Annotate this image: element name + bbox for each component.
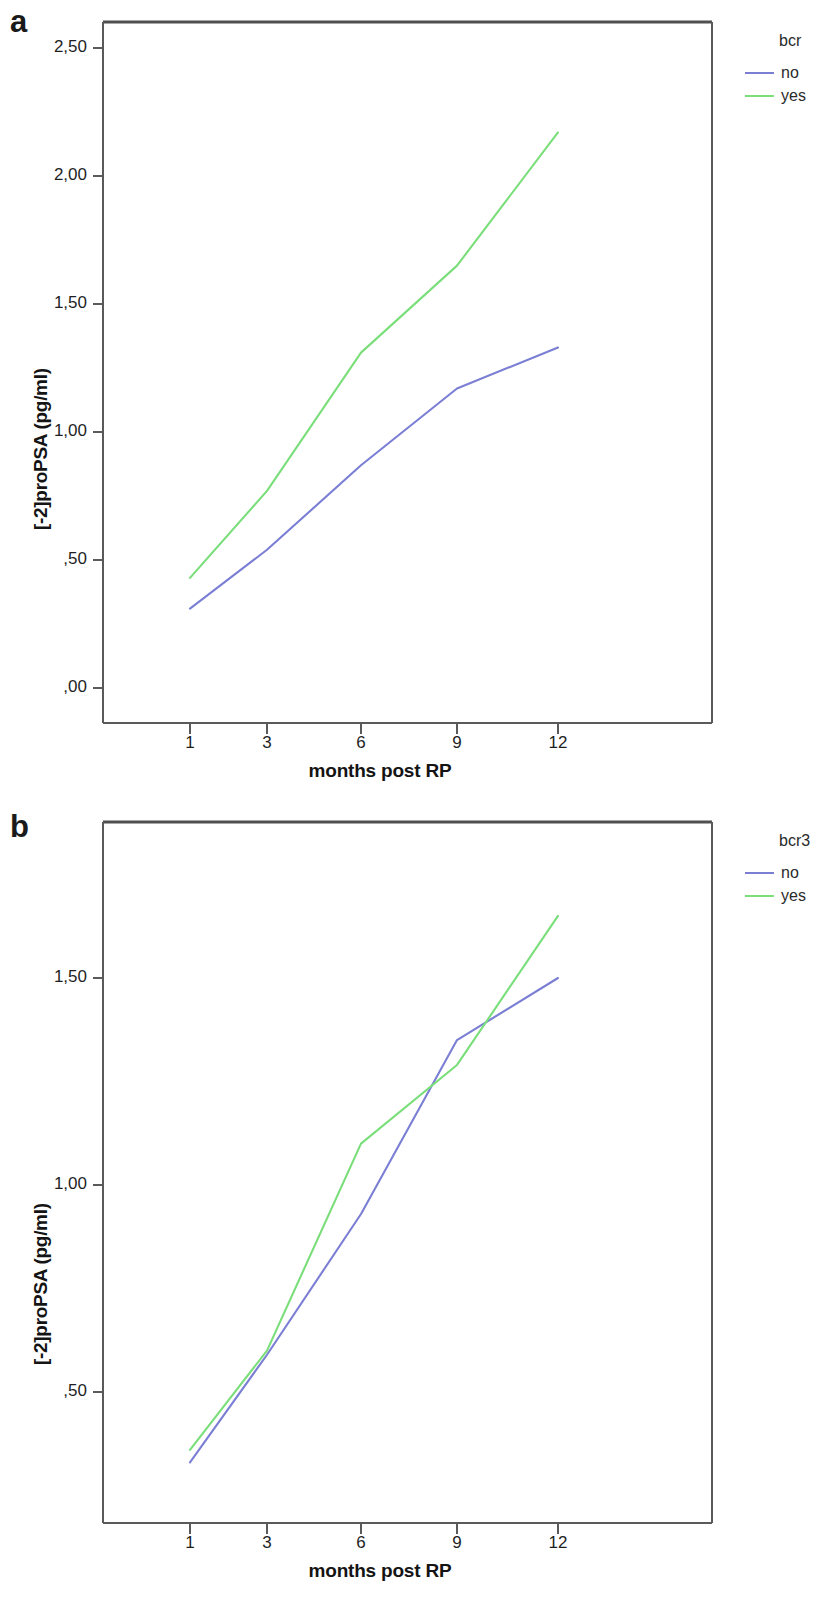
y-tick-label: 1,00 <box>54 421 87 441</box>
x-tick-label: 12 <box>528 733 588 753</box>
legend-swatch-yes-a <box>745 95 774 97</box>
plot-area-b <box>0 805 831 1610</box>
y-axis-title-a: [-2]proPSA (pg/ml) <box>30 368 52 530</box>
legend-swatch-no-b <box>745 872 774 874</box>
x-tick-label: 1 <box>160 733 220 753</box>
y-tick-label: 1,00 <box>54 1174 87 1194</box>
legend-title-a: bcr <box>745 32 806 50</box>
legend-title-b: bcr3 <box>745 832 810 850</box>
y-tick-label: ,50 <box>63 549 87 569</box>
plot-area-a <box>0 0 831 805</box>
x-axis-title-b: months post RP <box>230 1560 530 1582</box>
x-tick-label: 6 <box>331 1533 391 1553</box>
x-tick-label: 9 <box>427 733 487 753</box>
legend-swatch-no-a <box>745 72 774 74</box>
y-tick-label: ,50 <box>63 1381 87 1401</box>
x-tick-label: 12 <box>528 1533 588 1553</box>
chart-panel-a: a [-2]proPSA (pg/ml) months post RP bcr … <box>0 0 831 805</box>
y-tick-label: 2,50 <box>54 37 87 57</box>
legend-item-yes-b: yes <box>745 884 810 907</box>
legend-item-no-a: no <box>745 61 806 84</box>
y-tick-label: 1,50 <box>54 293 87 313</box>
legend-item-yes-a: yes <box>745 84 806 107</box>
y-axis-title-b: [-2]proPSA (pg/ml) <box>30 1203 52 1365</box>
x-tick-label: 6 <box>331 733 391 753</box>
x-axis-title-a: months post RP <box>230 760 530 782</box>
legend-label-yes-a: yes <box>781 88 806 104</box>
chart-panel-b: b [-2]proPSA (pg/ml) months post RP bcr3… <box>0 805 831 1610</box>
y-tick-label: 1,50 <box>54 967 87 987</box>
x-tick-label: 3 <box>237 1533 297 1553</box>
legend-label-no-a: no <box>781 65 799 81</box>
legend-label-no-b: no <box>781 865 799 881</box>
x-tick-label: 1 <box>160 1533 220 1553</box>
legend-label-yes-b: yes <box>781 888 806 904</box>
legend-swatch-yes-b <box>745 895 774 897</box>
legend-a: bcr no yes <box>745 32 806 107</box>
legend-b: bcr3 no yes <box>745 832 810 907</box>
x-tick-label: 3 <box>237 733 297 753</box>
y-tick-label: 2,00 <box>54 165 87 185</box>
legend-item-no-b: no <box>745 861 810 884</box>
y-tick-label: ,00 <box>63 677 87 697</box>
x-tick-label: 9 <box>427 1533 487 1553</box>
